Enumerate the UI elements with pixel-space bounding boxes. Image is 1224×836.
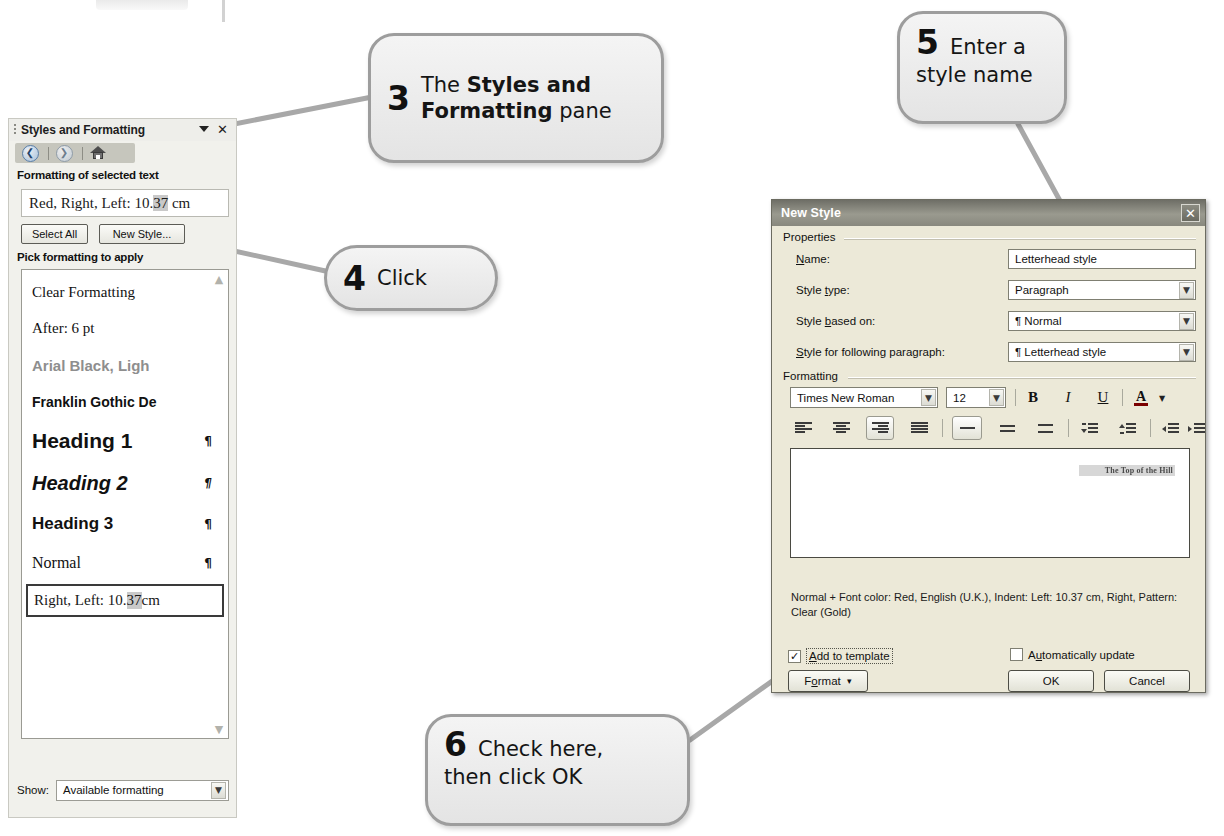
bold-icon: B <box>1028 389 1038 406</box>
style-description: Normal + Font color: Red, English (U.K.)… <box>791 590 1191 620</box>
list-item[interactable]: Clear Formatting <box>22 274 228 310</box>
chevron-down-icon[interactable]: ▼ <box>1179 313 1194 330</box>
dialog-title: New Style <box>772 206 841 220</box>
style-item-label: Arial Black, Ligh <box>32 357 150 374</box>
style-list[interactable]: ▲ ▼ Clear Formatting After: 6 pt Arial B… <box>21 269 229 739</box>
home-icon[interactable] <box>87 144 109 162</box>
increase-paragraph-spacing-button[interactable] <box>1114 418 1140 440</box>
style-based-on-dropdown[interactable]: ¶ Normal ▼ <box>1008 311 1196 331</box>
style-based-on-label: Style based on: <box>796 315 875 327</box>
callout-number: 5 <box>916 26 939 59</box>
chevron-down-icon[interactable]: ▼ <box>921 389 936 406</box>
line-spacing-1-5-button[interactable] <box>994 418 1020 439</box>
callout-step-4: 4 Click <box>324 245 498 311</box>
pilcrow-icon: ¶ <box>204 476 212 490</box>
line-spacing-double-icon <box>1038 424 1053 433</box>
style-preview: The Top of the Hill <box>790 448 1190 558</box>
properties-legend: Properties <box>783 231 840 243</box>
add-to-template-checkbox[interactable]: ✓ Add to template <box>788 648 893 664</box>
callout-number: 6 <box>444 728 467 761</box>
pane-drag-grip[interactable] <box>14 124 16 136</box>
close-icon[interactable]: ✕ <box>1181 204 1200 222</box>
font-size-dropdown[interactable]: 12 ▼ <box>946 387 1006 408</box>
show-dropdown[interactable]: Available formatting ▼ <box>56 780 229 801</box>
line-spacing-single-button[interactable] <box>952 416 982 440</box>
italic-button[interactable]: I <box>1057 387 1079 408</box>
style-type-label: Style type: <box>796 284 850 296</box>
forward-arrow-icon[interactable]: ❯ <box>53 144 75 162</box>
automatically-update-checkbox[interactable]: Automatically update <box>1010 648 1135 661</box>
style-item-label: Heading 2 <box>32 472 128 495</box>
select-all-button[interactable]: Select All <box>21 224 88 244</box>
increase-indent-icon <box>1188 423 1205 436</box>
chevron-down-icon[interactable]: ▼ <box>211 782 226 799</box>
style-based-on-value: ¶ Normal <box>1015 315 1061 327</box>
style-item-label: Heading 1 <box>32 429 132 453</box>
style-type-dropdown[interactable]: Paragraph ▼ <box>1008 280 1196 300</box>
toolbar-separator <box>1150 419 1151 437</box>
styles-and-formatting-pane: Styles and Formatting ✕ ❮ ❯ Formatting o… <box>8 118 237 818</box>
font-family-value: Times New Roman <box>797 392 894 404</box>
list-item[interactable]: After: 6 pt <box>22 310 228 346</box>
decrease-paragraph-spacing-icon <box>1081 423 1098 436</box>
dialog-titlebar[interactable]: New Style ✕ <box>772 200 1205 226</box>
list-item-selected[interactable]: Right, Left: 10.37 cm <box>26 584 224 617</box>
line-spacing-double-button[interactable] <box>1032 418 1058 439</box>
callout-text-line1: Enter a <box>950 34 1026 60</box>
align-left-icon <box>795 422 812 435</box>
chevron-down-icon[interactable] <box>199 126 209 132</box>
pilcrow-icon: ¶ <box>204 517 212 531</box>
pilcrow-icon: ¶ <box>204 556 212 570</box>
list-item[interactable]: Normal ¶ <box>22 544 228 582</box>
chevron-down-icon[interactable]: ▼ <box>212 722 226 736</box>
underline-button[interactable]: U <box>1092 387 1114 408</box>
align-justify-button[interactable] <box>906 418 932 439</box>
callout-step-6: 6 Check here, then click OK <box>425 714 690 826</box>
formatting-of-selected-text-label: Formatting of selected text <box>17 169 159 181</box>
font-size-value: 12 <box>953 392 966 404</box>
chevron-down-icon[interactable]: ▼ <box>1179 344 1194 361</box>
align-center-button[interactable] <box>828 418 854 439</box>
align-left-button[interactable] <box>790 418 816 439</box>
font-family-dropdown[interactable]: Times New Roman ▼ <box>790 387 938 408</box>
toolbar-separator <box>82 147 83 160</box>
chevron-down-icon[interactable]: ▼ <box>989 389 1004 406</box>
chevron-down-icon[interactable]: ▼ <box>1179 282 1194 299</box>
bold-button[interactable]: B <box>1022 387 1044 408</box>
group-divider <box>844 238 1196 240</box>
list-item[interactable]: Franklin Gothic De <box>22 384 228 420</box>
name-field[interactable]: Letterhead style <box>1008 249 1196 269</box>
selected-format-box[interactable]: Red, Right, Left: 10.37 cm <box>21 189 229 217</box>
font-color-chevron-down-icon[interactable]: ▼ <box>1157 393 1167 403</box>
style-for-following-paragraph-dropdown[interactable]: ¶ Letterhead style ▼ <box>1008 342 1196 362</box>
align-right-button[interactable] <box>866 416 894 440</box>
align-justify-icon <box>911 422 928 435</box>
toolbar-separator <box>1015 389 1016 406</box>
increase-indent-button[interactable] <box>1184 418 1208 440</box>
style-type-value: Paragraph <box>1015 284 1069 296</box>
selected-style-prefix: Right, Left: 10. <box>34 592 127 609</box>
list-item[interactable]: Arial Black, Ligh <box>22 346 228 384</box>
decrease-paragraph-spacing-button[interactable] <box>1076 418 1102 440</box>
cropped-artifact-top <box>96 0 188 10</box>
close-icon[interactable]: ✕ <box>217 123 228 136</box>
list-item[interactable]: Heading 1 ¶ <box>22 420 228 462</box>
ok-button[interactable]: OK <box>1008 670 1094 692</box>
formatting-legend: Formatting <box>783 370 843 382</box>
new-style-button[interactable]: New Style... <box>99 224 185 244</box>
decrease-indent-button[interactable] <box>1158 418 1182 440</box>
pick-formatting-to-apply-label: Pick formatting to apply <box>17 251 143 263</box>
format-button[interactable]: Format ▾ <box>788 670 868 692</box>
list-item[interactable]: Heading 2 ¶ <box>22 462 228 504</box>
checkbox-checked-icon: ✓ <box>788 650 801 663</box>
checkbox-unchecked-icon <box>1010 648 1023 661</box>
font-color-button[interactable]: A <box>1129 387 1153 408</box>
cancel-button[interactable]: Cancel <box>1104 670 1190 692</box>
back-arrow-icon[interactable]: ❮ <box>19 144 41 162</box>
cropped-artifact-line <box>222 0 225 22</box>
add-to-template-label: Add to template <box>806 648 893 664</box>
callout-text-line2: style name <box>916 62 1048 88</box>
show-filter-row: Show: Available formatting ▼ <box>17 779 229 801</box>
list-item[interactable]: Heading 3 ¶ <box>22 504 228 544</box>
callout-text: Click <box>377 265 427 291</box>
